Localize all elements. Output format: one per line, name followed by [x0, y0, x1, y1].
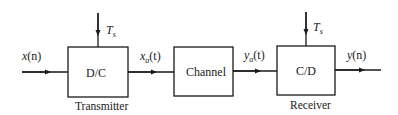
ya-signal-label: ya(t) [244, 49, 265, 64]
transmitter-caption: Transmitter [75, 101, 128, 113]
cd-clock-label: Ts [313, 21, 323, 36]
output-signal-label: y(n) [347, 49, 366, 61]
xa-signal-label: xa(t) [140, 50, 161, 65]
input-signal-label: x(n) [22, 50, 41, 62]
block-diagram: D/C Channel C/D Transmitter Receiver Ts … [0, 0, 398, 115]
diagram-lines [0, 0, 398, 115]
dc-label: D/C [86, 67, 106, 79]
cd-label: C/D [296, 65, 316, 77]
channel-label: Channel [186, 66, 226, 78]
dc-clock-label: Ts [106, 24, 116, 39]
receiver-caption: Receiver [290, 100, 331, 112]
